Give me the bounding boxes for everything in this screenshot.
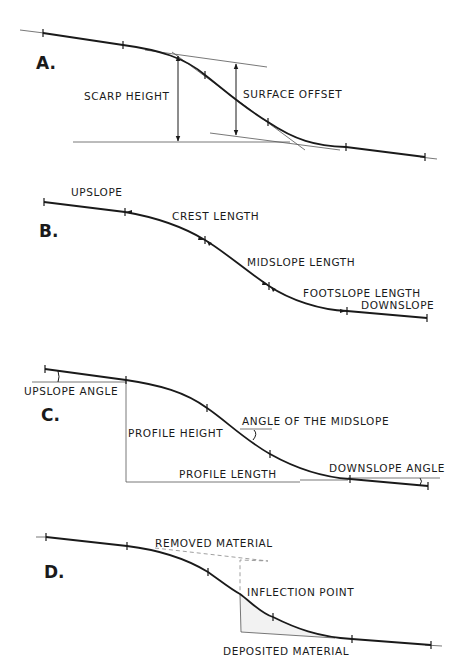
profile-length-label: PROFILE LENGTH: [179, 468, 277, 480]
upslope-label: UPSLOPE: [71, 186, 123, 198]
scarp-morphology-diagram: A. SCARP HEIGHT SURFACE OFFSET B.: [0, 0, 459, 663]
upslope-extension-line: [20, 30, 44, 33]
angle-of-midslope-label: ANGLE OF THE MIDSLOPE: [242, 415, 389, 427]
panel-b: B. UPSLOPE CREST LENGTH MIDSLOPE LENGTH …: [39, 186, 434, 322]
footslope-length-label: FOOTSLOPE LENGTH: [303, 287, 421, 299]
panel-d: D. REMOVED MATERIAL INFLECTION POINT DEP…: [36, 533, 442, 657]
lower-surface-projection-line: [210, 133, 340, 150]
upslope-angle-arc: [58, 371, 59, 382]
removed-material-label: REMOVED MATERIAL: [155, 537, 273, 549]
surface-offset-label: SURFACE OFFSET: [243, 88, 342, 100]
profile-ticks: [46, 533, 431, 649]
inflection-point-label: INFLECTION POINT: [247, 586, 354, 598]
midslope-length-label: MIDSLOPE LENGTH: [247, 256, 355, 268]
downslope-label: DOWNSLOPE: [361, 299, 434, 311]
deposited-material-fill: [240, 595, 335, 638]
panel-label-b: B.: [39, 221, 58, 241]
crest-length-label: CREST LENGTH: [172, 210, 259, 222]
panel-c: C. UPSLOPE ANGLE PROFILE HEIGHT ANGLE OF…: [24, 365, 445, 490]
panel-a: A. SCARP HEIGHT SURFACE OFFSET: [20, 29, 437, 161]
downslope-angle-arc: [420, 478, 422, 485]
deposited-material-label: DEPOSITED MATERIAL: [223, 645, 349, 657]
panel-label-a: A.: [36, 53, 56, 73]
midslope-angle-arc: [253, 430, 256, 440]
scarp-profile-curve: [46, 537, 431, 645]
profile-height-label: PROFILE HEIGHT: [128, 427, 223, 439]
upslope-angle-label: UPSLOPE ANGLE: [24, 385, 118, 397]
panel-label-c: C.: [41, 405, 60, 425]
scarp-height-label: SCARP HEIGHT: [84, 90, 169, 102]
downslope-angle-label: DOWNSLOPE ANGLE: [329, 462, 445, 474]
panel-label-d: D.: [44, 562, 65, 582]
